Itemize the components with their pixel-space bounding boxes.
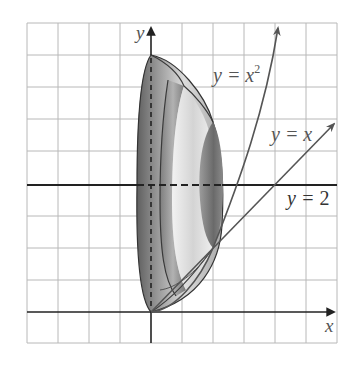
label-parabola-main: y = x	[213, 64, 254, 86]
label-parabola-exponent: 2	[254, 62, 260, 76]
label-parabola: y = x2	[213, 64, 260, 85]
label-axis-of-rotation: y = 2	[287, 188, 329, 208]
diagram-canvas	[0, 0, 359, 371]
label-axis-number: 2	[319, 187, 329, 209]
solid-of-revolution	[137, 55, 223, 312]
y-axis-label: y	[136, 23, 144, 42]
x-axis-label: x	[325, 316, 333, 335]
label-line: y = x	[271, 124, 312, 144]
label-axis-main: y =	[287, 187, 319, 209]
